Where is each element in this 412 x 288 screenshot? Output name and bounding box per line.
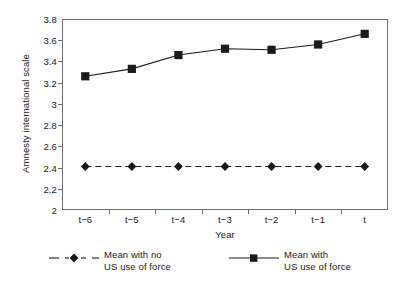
y-tick-label: 3.8 [17, 14, 57, 25]
legend-label-no-us-force: Mean with no US use of force [104, 249, 171, 272]
series-line [85, 34, 364, 76]
x-tick-label: t [343, 214, 387, 225]
y-tick-label: 2.4 [17, 162, 57, 173]
y-tick-label: 2.6 [17, 141, 57, 152]
x-tick-label: t−5 [110, 214, 154, 225]
x-tick-mark [341, 210, 342, 214]
data-point-marker [127, 162, 136, 171]
legend-sample-diamond-dashed [48, 250, 100, 262]
chart-legend: Mean with no US use of force Mean with U… [0, 249, 412, 283]
legend-sample-square-solid [228, 250, 280, 262]
x-tick-mark [109, 210, 110, 214]
data-point-marker [174, 162, 183, 171]
data-point-marker [361, 30, 369, 38]
x-tick-mark [202, 210, 203, 214]
data-point-marker [267, 162, 276, 171]
data-point-marker [360, 162, 369, 171]
data-point-marker [221, 162, 230, 171]
data-point-marker [267, 46, 275, 54]
series-us-force [81, 30, 369, 81]
y-tick-label: 2.8 [17, 120, 57, 131]
series-no-us-force [81, 162, 369, 171]
y-tick-label: 2.2 [17, 183, 57, 194]
x-tick-mark [155, 210, 156, 214]
data-series-layer [62, 19, 388, 210]
x-tick-label: t−4 [156, 214, 200, 225]
data-point-marker [81, 162, 90, 171]
amnesty-scale-line-chart: Amnesty international scale 22.22.42.62.… [0, 0, 412, 288]
data-point-marker [128, 65, 136, 73]
y-tick-label: 3.6 [17, 35, 57, 46]
legend-label-us-force: Mean with US use of force [284, 249, 351, 272]
y-tick-label: 3.2 [17, 77, 57, 88]
x-tick-mark [295, 210, 296, 214]
x-tick-label: t−1 [296, 214, 340, 225]
y-tick-label: 3.4 [17, 56, 57, 67]
data-point-marker [174, 51, 182, 59]
legend-entry-no-us-force: Mean with no US use of force [48, 249, 171, 272]
x-tick-label: t−3 [203, 214, 247, 225]
x-tick-label: t−2 [250, 214, 294, 225]
data-point-marker [81, 72, 89, 80]
y-tick-label: 3 [17, 98, 57, 109]
y-tick-label: 2 [17, 205, 57, 216]
data-point-marker [314, 162, 323, 171]
x-tick-mark [248, 210, 249, 214]
x-axis-title: Year [62, 229, 388, 240]
data-point-marker [221, 45, 229, 53]
data-point-marker [314, 40, 322, 48]
x-tick-label: t−6 [63, 214, 107, 225]
legend-entry-us-force: Mean with US use of force [228, 249, 351, 272]
